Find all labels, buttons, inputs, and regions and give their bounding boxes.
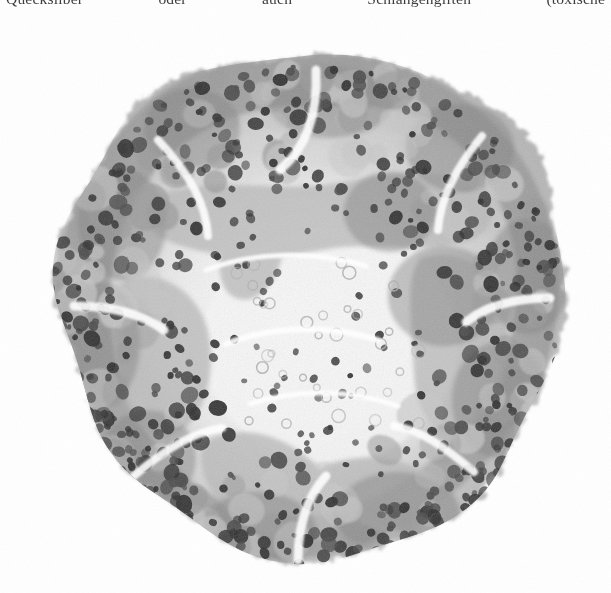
tissue-section (30, 44, 578, 578)
tissue-interior (30, 44, 578, 578)
page-text-line-content: Quecksilber oder auch Schlangengiften (t… (0, 0, 611, 9)
micrograph-figure (30, 44, 578, 578)
page-text-line: Quecksilber oder auch Schlangengiften (t… (0, 0, 611, 9)
micrograph-canvas (30, 44, 578, 578)
